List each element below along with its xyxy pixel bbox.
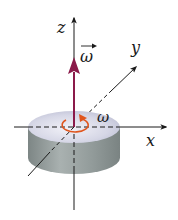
angular-velocity-vector-head [68, 57, 80, 74]
x-axis-label: x [146, 131, 155, 150]
y-axis [110, 67, 136, 92]
angular-velocity-vector-label: ω [80, 47, 93, 66]
rotation-label: ω [97, 108, 109, 126]
diagram-canvas: z y x ω ω [0, 0, 178, 220]
y-axis-label: y [130, 38, 141, 57]
rotating-disk-diagram: z y x ω ω [0, 0, 178, 220]
vector-arrow-over-omega-head [92, 44, 97, 49]
z-axis-label: z [56, 18, 66, 37]
